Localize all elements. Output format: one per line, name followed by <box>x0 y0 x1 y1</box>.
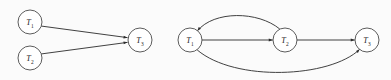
node-t1-label-subscript: 1 <box>31 23 34 29</box>
node-t2-label-subscript: 2 <box>31 59 34 65</box>
node-r-t3[interactable]: T3 <box>355 28 379 52</box>
figure-canvas: T1 T2 T3 <box>0 0 391 80</box>
right-panel: T1 T2 T3 <box>178 15 379 72</box>
node-t2[interactable]: T2 <box>18 46 42 70</box>
node-r-t1[interactable]: T1 <box>178 28 202 52</box>
left-panel-edges <box>42 26 128 54</box>
node-t1[interactable]: T1 <box>18 10 42 34</box>
edge-r-t1-to-t3-arc <box>198 50 360 73</box>
edge-t1-to-t3 <box>42 26 128 37</box>
graph-figure: T1 T2 T3 <box>0 0 391 80</box>
left-panel: T1 T2 T3 <box>18 10 152 70</box>
edge-r-t2-to-t1-arc <box>198 15 280 30</box>
node-r-t3-label-subscript: 3 <box>368 41 371 47</box>
node-r-t1-label-subscript: 1 <box>191 41 194 47</box>
node-t3-label-subscript: 3 <box>141 41 144 47</box>
node-r-t2-label-subscript: 2 <box>286 41 289 47</box>
edge-t2-to-t3 <box>42 42 128 54</box>
node-t3[interactable]: T3 <box>128 28 152 52</box>
node-r-t2[interactable]: T2 <box>273 28 297 52</box>
